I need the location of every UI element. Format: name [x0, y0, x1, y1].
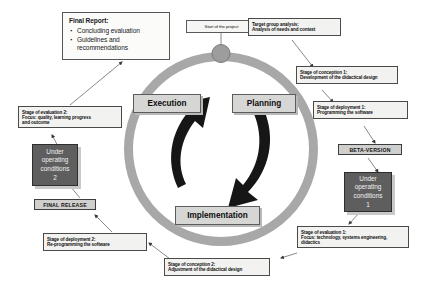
note-conception1-line2: Development of the didactical design: [300, 75, 394, 80]
uoc2-line4: 2: [53, 174, 57, 183]
uoc1-line2: operating: [355, 183, 382, 192]
start-of-project-box[interactable]: Start of the project: [186, 20, 257, 33]
final-report-bullet-2: Guidelines and: [77, 36, 120, 43]
artifact-under-operating-conditions-2[interactable]: Under operating conditions 2: [32, 144, 78, 186]
ring-start-node: [212, 44, 231, 63]
uoc1-line3: conditions: [354, 192, 383, 201]
uoc1-line1: Under: [359, 175, 376, 184]
final-report-bullet-2-3: Guidelines and recommendations: [69, 36, 163, 52]
note-conception1-line1: Stage of conception 1:: [300, 70, 347, 75]
line-beta-to-uoc1: [368, 158, 378, 172]
final-report-bullet-1: Concluding evaluation: [69, 27, 163, 35]
line-uoc1-to-evaluation1: [349, 211, 361, 224]
artifact-beta-version[interactable]: BETA-VERSION: [338, 144, 402, 155]
uoc2-line1: Under: [46, 148, 63, 157]
line-evaluation2-to-final-report: [70, 62, 122, 105]
note-evaluation1-line1: Stage of evaluation 1:: [301, 230, 346, 235]
note-stage-conception-1[interactable]: Stage of conception 1: Development of th…: [296, 66, 398, 84]
final-report-bullet-list: Concluding evaluation Guidelines and rec…: [69, 27, 163, 53]
phase-label-planning[interactable]: Planning: [232, 94, 296, 113]
note-target-group-line1: Target group analysis:: [252, 22, 299, 27]
note-conception2-line2: Adjustment of the didactical design: [168, 267, 266, 272]
note-stage-evaluation-2[interactable]: Stage of evaluation 2: Focus: quality, l…: [18, 106, 122, 128]
phase-execution-text: Execution: [147, 99, 186, 108]
uoc2-line3: conditions: [41, 165, 70, 174]
note-evaluation2-line1: Stage of evaluation 2:: [22, 110, 67, 115]
note-deployment1-line2: Programming the software: [317, 110, 404, 115]
note-evaluation2-line3: and outcome: [22, 120, 118, 125]
final-release-label: FINAL RELEASE: [43, 202, 87, 208]
note-stage-deployment-2[interactable]: Stage of deployment 2: Re-programming th…: [43, 233, 147, 251]
note-conception2-line1: Stage of conception 2:: [168, 262, 215, 267]
phase-label-implementation[interactable]: Implementation: [175, 206, 260, 225]
diagram-canvas: Execution Planning Implementation Start …: [0, 0, 437, 296]
uoc1-line4: 1: [366, 201, 370, 210]
note-stage-deployment-1[interactable]: Stage of deployment 1: Programming the s…: [313, 101, 408, 119]
artifact-final-release[interactable]: FINAL RELEASE: [34, 199, 96, 210]
start-of-project-label: Start of the project: [205, 24, 239, 29]
phase-planning-text: Planning: [247, 99, 282, 108]
phase-label-execution[interactable]: Execution: [133, 94, 201, 113]
line-deployment1-to-beta: [364, 126, 375, 143]
final-report-title: Final Report:: [69, 17, 163, 25]
note-deployment1-line1: Stage of deployment 1:: [317, 105, 365, 110]
final-report-bullet-3: recommendations: [77, 44, 128, 51]
note-stage-evaluation-1[interactable]: Stage of evaluation 1: Focus: technology…: [297, 226, 409, 248]
artifact-under-operating-conditions-1[interactable]: Under operating conditions 1: [344, 172, 392, 212]
line-final-release-to-uoc2: [70, 186, 80, 198]
note-stage-conception-2[interactable]: Stage of conception 2: Adjustment of the…: [164, 258, 270, 276]
line-evaluation1-to-conception2: [281, 253, 297, 258]
beta-version-label: BETA-VERSION: [349, 147, 390, 153]
note-evaluation1-line3: didactics: [301, 240, 405, 245]
note-target-group-line2: Analysis of needs and context: [252, 27, 337, 32]
note-deployment2-line2: Re-programming the software: [47, 242, 143, 247]
note-target-group-analysis[interactable]: Target group analysis: Analysis of needs…: [248, 18, 341, 36]
final-report-box[interactable]: Final Report: Concluding evaluation Guid…: [62, 12, 170, 60]
note-deployment2-line1: Stage of deployment 2:: [47, 237, 95, 242]
uoc2-line2: operating: [42, 156, 69, 165]
phase-implementation-text: Implementation: [187, 211, 248, 220]
line-deployment2-to-final-release: [95, 215, 112, 232]
